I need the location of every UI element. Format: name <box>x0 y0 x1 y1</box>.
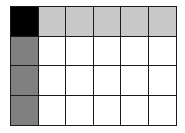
grid-cell-body <box>39 66 67 96</box>
grid-cell-header-row <box>121 7 149 37</box>
grid-cell-body <box>94 66 122 96</box>
grid-cell-body <box>94 96 122 126</box>
grid-cell-header-row <box>149 7 177 37</box>
grid-cell-header-col <box>11 37 39 67</box>
grid-cell-body <box>39 96 67 126</box>
grid-cell-header-row <box>66 7 94 37</box>
grid-cell-header-row <box>39 7 67 37</box>
grid-cell-body <box>121 37 149 67</box>
grid-cell-header-row <box>94 7 122 37</box>
grid-cell-body <box>66 66 94 96</box>
grid-cell-body <box>121 66 149 96</box>
grid-cell-body <box>149 96 177 126</box>
grid-cell-body <box>94 37 122 67</box>
grid-cell-corner <box>11 7 39 37</box>
grid-cell-body <box>121 96 149 126</box>
grid-diagram <box>10 6 177 126</box>
grid-cell-body <box>66 96 94 126</box>
grid-cell-header-col <box>11 96 39 126</box>
grid-cell-body <box>149 66 177 96</box>
grid-cell-body <box>66 37 94 67</box>
grid-cell-body <box>149 37 177 67</box>
grid-cell-header-col <box>11 66 39 96</box>
grid-cell-body <box>39 37 67 67</box>
